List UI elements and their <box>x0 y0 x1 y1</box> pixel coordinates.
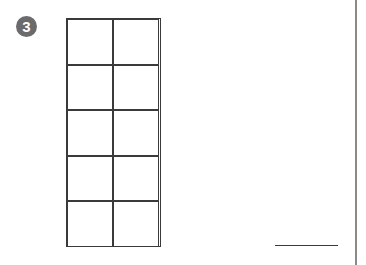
problem-number-badge: 3 <box>16 16 37 37</box>
ten-frame-cell <box>67 110 113 156</box>
ten-frame-cell <box>113 201 159 247</box>
ten-frame-cell <box>67 201 113 247</box>
column-divider <box>355 0 357 265</box>
answer-blank-line[interactable] <box>275 245 338 246</box>
ten-frame-cell <box>67 65 113 111</box>
ten-frame-cell <box>67 156 113 202</box>
problem-number: 3 <box>22 18 30 35</box>
ten-frame-cell <box>113 19 159 65</box>
ten-frame-cell <box>113 156 159 202</box>
ten-frame-cell <box>113 110 159 156</box>
ten-frame-cell <box>67 19 113 65</box>
ten-frame-grid <box>66 18 161 247</box>
ten-frame-cell <box>113 65 159 111</box>
